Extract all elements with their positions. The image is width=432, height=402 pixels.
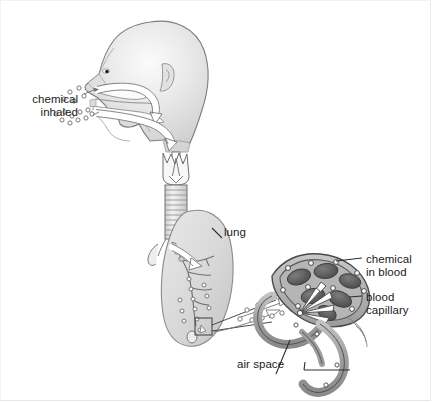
left-bronchus — [148, 244, 158, 265]
lung-group — [148, 210, 233, 346]
lung-outline — [161, 210, 233, 346]
head-profile-group — [85, 21, 208, 152]
label-air-space: air space — [237, 358, 299, 371]
eye-pupil — [105, 70, 108, 73]
upper-lip — [90, 99, 96, 107]
leader-air-space-tick — [304, 362, 305, 370]
label-blood-capillary: blood capillary — [366, 291, 430, 317]
alveolar-capillary-group — [272, 254, 370, 327]
anatomy-illustration — [0, 0, 432, 402]
label-lung: lung — [224, 226, 264, 239]
label-chemical-in-blood: chemical in blood — [366, 253, 430, 279]
diffusion-origin-particle — [297, 310, 302, 315]
diagram-canvas: chemical inhaled lung chemical in blood … — [0, 0, 432, 402]
label-chemical-inhaled: chemical inhaled — [8, 93, 78, 119]
